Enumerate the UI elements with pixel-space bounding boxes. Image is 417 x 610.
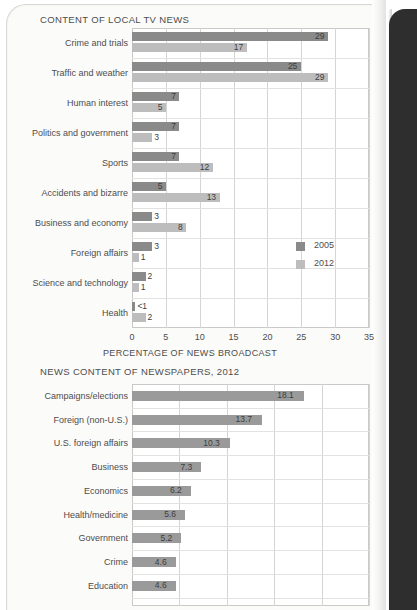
chart2-bar-value: 6.2 xyxy=(170,486,182,495)
chart1-bar-value: 3 xyxy=(154,133,159,142)
chart2-category-label: U.S. foreign affairs xyxy=(8,438,128,448)
chart1-category-label: Traffic and weather xyxy=(8,68,128,78)
chart1-bar-value: 12 xyxy=(200,163,209,172)
chart1-bar-2005 xyxy=(132,62,301,71)
chart1-category-label: Business and economy xyxy=(8,218,128,228)
chart2-category-label: Crime xyxy=(8,557,128,567)
chart1-bar-value: 17 xyxy=(234,43,243,52)
legend-label: 2005 xyxy=(314,240,334,250)
chart1-legend: 20052012 xyxy=(296,240,366,272)
chart1-bar-2005 xyxy=(132,32,328,41)
chart2-bar-value: 4.6 xyxy=(155,581,167,590)
chart1-bar-2012 xyxy=(132,253,139,262)
chart1-xtick: 5 xyxy=(154,332,178,342)
chart2-bar xyxy=(132,557,176,567)
chart2-category-label: Foreign (non-U.S.) xyxy=(8,415,128,425)
chart1-xtick: 15 xyxy=(222,332,246,342)
chart1-bar-2012 xyxy=(132,73,328,82)
chart2-bar-value: 4.6 xyxy=(155,558,167,567)
chart1-bar-2005 xyxy=(132,272,146,281)
chart1-bar-value: 8 xyxy=(178,223,183,232)
page-gutter xyxy=(372,0,386,610)
chart2-category-label: Health/medicine xyxy=(8,510,128,520)
chart1-category-label: Science and technology xyxy=(8,278,128,288)
chart2-bar xyxy=(132,581,176,591)
chart2-bar-value: 13.7 xyxy=(235,415,252,424)
scanned-textbook-page: CONTENT OF LOCAL TV NEWS NEWS CONTENT OF… xyxy=(0,0,417,610)
chart2-bar-value: 18.1 xyxy=(277,391,294,400)
chart2-bar-value: 7.3 xyxy=(180,463,192,472)
chart1-bar-2012 xyxy=(132,283,139,292)
chart1-bar-2005 xyxy=(132,302,135,311)
chart1-bar-value: 1 xyxy=(141,253,146,262)
legend-item-2005[interactable]: 2005 xyxy=(296,240,366,252)
chart1-bar-2012 xyxy=(132,133,152,142)
legend-swatch-icon xyxy=(296,260,305,269)
chart2-category-label: Economics xyxy=(8,486,128,496)
chart2-title: NEWS CONTENT OF NEWSPAPERS, 2012 xyxy=(40,366,239,377)
legend-label: 2012 xyxy=(314,258,334,268)
chart1-bar-2005 xyxy=(132,242,152,251)
chart2-bar-value: 5.6 xyxy=(164,510,176,519)
chart1-rowline xyxy=(132,148,369,149)
chart1-bar-2012 xyxy=(132,43,247,52)
chart2-gridline xyxy=(274,384,275,606)
chart2-rowline xyxy=(132,455,369,456)
chart1-bar-2012 xyxy=(132,313,146,322)
chart1-bar-value: 3 xyxy=(154,242,159,251)
chart1-bar-value: 5 xyxy=(158,182,163,191)
chart2-bar xyxy=(132,533,181,543)
chart1-category-label: Politics and government xyxy=(8,128,128,138)
chart1-category-label: Health xyxy=(8,308,128,318)
chart1-xtick: 30 xyxy=(323,332,347,342)
chart2-rowline xyxy=(132,598,369,599)
chart1-rowline xyxy=(132,88,369,89)
chart2-category-label: Government xyxy=(8,533,128,543)
chart1-rowline xyxy=(132,178,369,179)
chart1-category-label: Human interest xyxy=(8,98,128,108)
chart1-bar-value: 29 xyxy=(315,32,324,41)
chart1-rowline xyxy=(132,208,369,209)
legend-item-2012[interactable]: 2012 xyxy=(296,258,366,270)
chart2-rowline xyxy=(132,503,369,504)
chart1-bar-value: 13 xyxy=(207,193,216,202)
chart2-rowline xyxy=(132,431,369,432)
chart1-rowline xyxy=(132,238,369,239)
chart2-rowline xyxy=(132,526,369,527)
chart1-category-label: Accidents and bizarre xyxy=(8,188,128,198)
chart1-bar-value: 29 xyxy=(315,73,324,82)
chart2-category-label: Education xyxy=(8,581,128,591)
chart1-bar-2005 xyxy=(132,212,152,221)
chart1-rowline xyxy=(132,118,369,119)
chart1-xaxis-title: PERCENTAGE OF NEWS BROADCAST xyxy=(0,348,380,358)
chart1-category-label: Foreign affairs xyxy=(8,248,128,258)
chart2-bar-value: 10.3 xyxy=(203,439,220,448)
chart2-rowline xyxy=(132,479,369,480)
chart2-category-label: Campaigns/elections xyxy=(8,391,128,401)
chart1-bar-value: 3 xyxy=(154,212,159,221)
chart1-bar-value: 7 xyxy=(171,122,176,131)
chart1-rowline xyxy=(132,298,369,299)
chart1-xtick: 25 xyxy=(289,332,313,342)
chart1-bar-value: 25 xyxy=(288,62,297,71)
chart2-bar-value: 5.2 xyxy=(160,534,172,543)
chart2-gridline xyxy=(322,384,323,606)
chart1-bar-value: <1 xyxy=(137,302,147,311)
chart2-rowline xyxy=(132,550,369,551)
chart1-bar-value: 7 xyxy=(171,92,176,101)
book-binding xyxy=(389,9,417,610)
chart2-category-label: Business xyxy=(8,462,128,472)
chart2-gridline xyxy=(369,384,370,606)
chart1-title: CONTENT OF LOCAL TV NEWS xyxy=(40,14,189,25)
chart1-xtick: 35 xyxy=(357,332,381,342)
chart1-bar-value: 7 xyxy=(171,152,176,161)
chart1-rowline xyxy=(132,58,369,59)
chart1-xtick: 20 xyxy=(255,332,279,342)
chart1-category-label: Sports xyxy=(8,158,128,168)
chart1-bar-value: 2 xyxy=(148,313,153,322)
chart2-bar xyxy=(132,510,185,520)
chart1-bar-value: 1 xyxy=(141,283,146,292)
chart1-gridline xyxy=(369,28,370,328)
legend-swatch-icon xyxy=(296,242,305,251)
chart1-bar-value: 5 xyxy=(158,103,163,112)
